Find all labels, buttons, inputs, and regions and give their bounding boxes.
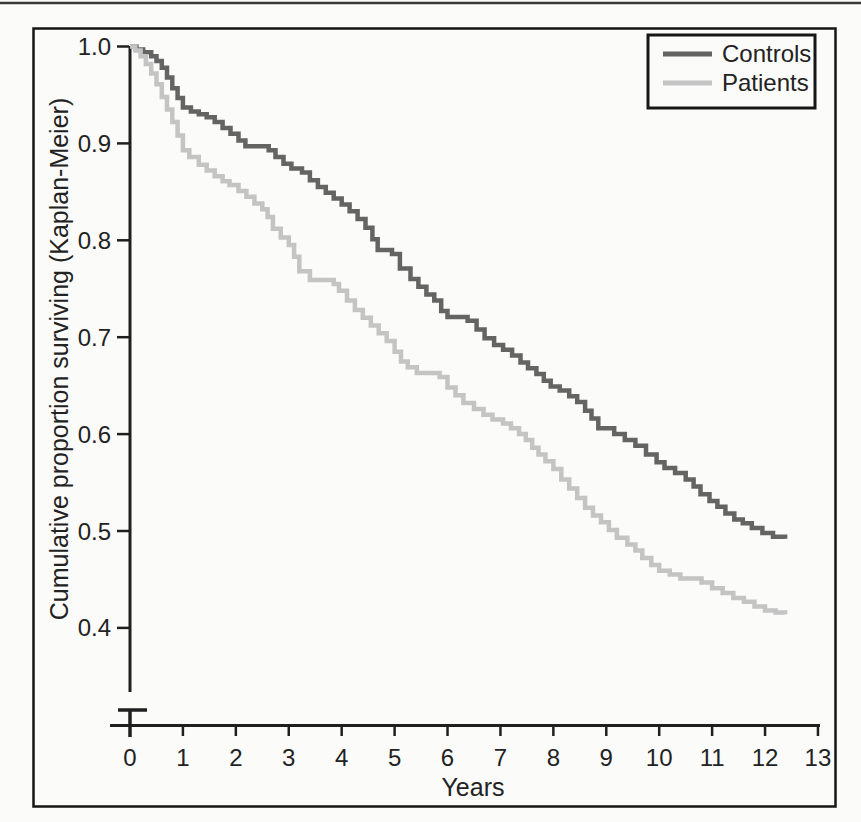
y-tick-label: 0.9 xyxy=(78,130,111,157)
x-tick-label: 1 xyxy=(176,744,189,771)
legend-label-controls: Controls xyxy=(722,40,811,67)
figure-frame xyxy=(34,29,836,807)
x-tick-label: 3 xyxy=(282,744,295,771)
x-tick-label: 4 xyxy=(335,744,348,771)
y-tick-label: 0.6 xyxy=(78,421,111,448)
x-tick-label: 10 xyxy=(646,744,673,771)
y-tick-label: 0.8 xyxy=(78,227,111,254)
x-axis-ticks: 012345678910111213 xyxy=(123,727,831,771)
x-tick-label: 12 xyxy=(752,744,779,771)
x-tick-label: 7 xyxy=(494,744,507,771)
y-axis-ticks: 1.00.90.80.70.60.50.4 xyxy=(78,33,129,641)
legend-label-patients: Patients xyxy=(722,69,809,96)
y-axis-title: Cumulative proportion surviving (Kaplan-… xyxy=(45,98,73,620)
km-figure: 1.00.90.80.70.60.50.4 012345678910111213… xyxy=(0,0,861,822)
controls-curve xyxy=(130,47,785,539)
x-tick-label: 13 xyxy=(805,744,832,771)
x-tick-label: 2 xyxy=(229,744,242,771)
y-tick-label: 0.4 xyxy=(78,614,111,641)
y-axis-break-mark xyxy=(118,710,147,737)
x-tick-label: 6 xyxy=(441,744,454,771)
y-tick-label: 1.0 xyxy=(78,33,111,60)
x-tick-label: 9 xyxy=(600,744,613,771)
x-tick-label: 8 xyxy=(547,744,560,771)
y-tick-label: 0.7 xyxy=(78,324,111,351)
survival-curves xyxy=(130,47,785,615)
x-tick-label: 0 xyxy=(123,744,136,771)
km-chart: 1.00.90.80.70.60.50.4 012345678910111213… xyxy=(0,0,861,822)
x-axis-title: Years xyxy=(441,773,504,801)
legend: Controls Patients xyxy=(648,35,815,108)
x-tick-label: 5 xyxy=(388,744,401,771)
x-tick-label: 11 xyxy=(700,744,725,771)
y-tick-label: 0.5 xyxy=(78,518,111,545)
